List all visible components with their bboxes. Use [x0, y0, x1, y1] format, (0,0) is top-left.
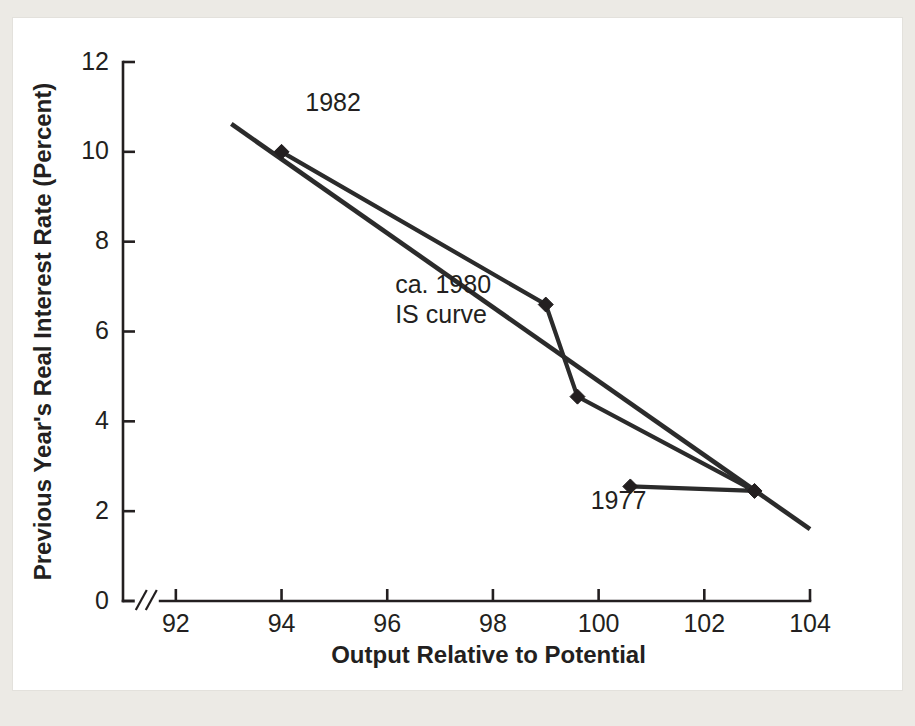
- is-curve-line: [231, 124, 810, 529]
- label-1977: 1977: [591, 486, 647, 514]
- x-axis-title: Output Relative to Potential: [331, 641, 646, 668]
- x-tick-label: 102: [683, 609, 725, 637]
- chart-canvas: 024681012 92949698100102104 19821977ca. …: [13, 18, 902, 690]
- y-axis-ticks: [123, 62, 135, 601]
- y-tick-label: 12: [81, 47, 109, 75]
- x-axis-break-icon: [135, 590, 159, 610]
- data-point-marker: [570, 389, 585, 404]
- y-tick-label: 10: [81, 136, 109, 164]
- label-is-curve-line1: ca. 1980: [395, 270, 491, 298]
- y-axis-tick-labels: 024681012: [81, 47, 109, 614]
- y-tick-label: 2: [95, 496, 109, 524]
- x-tick-label: 96: [373, 609, 401, 637]
- y-tick-label: 0: [95, 586, 109, 614]
- x-axis-ticks: [176, 589, 810, 601]
- figure-root: 024681012 92949698100102104 19821977ca. …: [0, 0, 915, 726]
- y-tick-label: 6: [95, 316, 109, 344]
- chart-annotations: 19821977ca. 1980IS curve: [305, 88, 646, 514]
- x-tick-label: 98: [479, 609, 507, 637]
- plot-series-group: [231, 124, 810, 529]
- y-tick-label: 4: [95, 406, 109, 434]
- x-tick-label: 104: [789, 609, 831, 637]
- label-is-curve-line2: IS curve: [395, 300, 487, 328]
- x-tick-label: 100: [578, 609, 620, 637]
- x-tick-label: 94: [268, 609, 296, 637]
- label-1982: 1982: [305, 88, 361, 116]
- x-axis: 92949698100102104: [123, 589, 831, 637]
- y-axis-title: Previous Year's Real Interest Rate (Perc…: [29, 83, 56, 581]
- x-axis-tick-labels: 92949698100102104: [162, 609, 831, 637]
- y-tick-label: 8: [95, 226, 109, 254]
- chart-card: 024681012 92949698100102104 19821977ca. …: [13, 18, 902, 690]
- x-tick-label: 92: [162, 609, 190, 637]
- y-axis: 024681012: [81, 47, 135, 614]
